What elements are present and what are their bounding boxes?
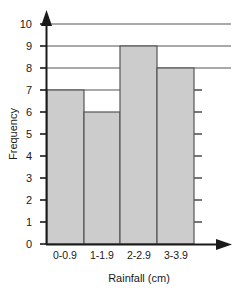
bar-0-0.9	[47, 90, 84, 244]
y-tick-label-0: 0	[10, 239, 32, 250]
bar-series	[47, 46, 194, 244]
y-tick-label-8: 8	[10, 63, 32, 74]
bar-1-1.9	[84, 112, 120, 244]
y-tick-label-3: 3	[10, 173, 32, 184]
y-tick-label-10: 10	[10, 19, 32, 30]
y-tick-label-2: 2	[10, 195, 32, 206]
bar-2-2.9	[120, 46, 157, 244]
bar-3-3.9	[157, 68, 194, 244]
x-tick-label-3: 3-3.9	[153, 250, 199, 261]
y-tick-label-1: 1	[10, 217, 32, 228]
histogram-chart: 10 9 8 7 6 5 4 3 2 1 0 0-0.9 1-1.9 2-2.9…	[0, 0, 244, 291]
y-axis-ticks	[40, 24, 46, 244]
chart-canvas	[0, 0, 244, 291]
right-axis-ticks	[194, 90, 202, 222]
y-axis-title: Frequency	[7, 94, 19, 174]
y-tick-label-9: 9	[10, 41, 32, 52]
x-axis-title: Rainfall (cm)	[46, 272, 232, 284]
